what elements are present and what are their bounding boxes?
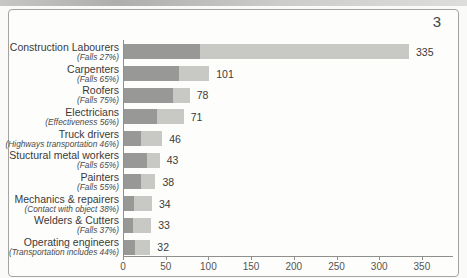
category-label-block: Truck drivers (Highways transportation 4… bbox=[0, 129, 123, 149]
x-axis-tick-label: 200 bbox=[279, 261, 309, 272]
category-label-block: Welders & Cutters (Falls 37%) bbox=[0, 215, 123, 235]
bar-row: Electricians (Effectiveness 56%) 71 bbox=[0, 106, 467, 128]
bar-chart: Construction Labourers (Falls 27%) 335 C… bbox=[0, 41, 467, 258]
category-label-block: Roofers (Falls 75%) bbox=[0, 85, 123, 105]
x-axis-tick bbox=[123, 256, 124, 260]
bar bbox=[123, 66, 209, 81]
bar-segment-primary bbox=[123, 218, 133, 233]
category-sublabel: (Falls 37%) bbox=[0, 226, 119, 235]
x-axis-tick bbox=[294, 256, 295, 260]
value-label: 46 bbox=[169, 133, 181, 145]
bar bbox=[123, 88, 190, 103]
bar-row: Truck drivers (Highways transportation 4… bbox=[0, 128, 467, 150]
bar-segment-secondary bbox=[147, 153, 160, 168]
bar-row: Mechanics & repairers (Contact with obje… bbox=[0, 193, 467, 215]
bar-row: Construction Labourers (Falls 27%) 335 bbox=[0, 41, 467, 63]
x-axis-tick-label: 250 bbox=[322, 261, 352, 272]
category-sublabel: (Falls 75%) bbox=[0, 96, 119, 105]
bar-row: Welders & Cutters (Falls 37%) 33 bbox=[0, 215, 467, 237]
bar-row: Operating engineers (Transportation incl… bbox=[0, 236, 467, 258]
value-label: 43 bbox=[167, 154, 179, 166]
bar-segment-primary bbox=[123, 174, 141, 189]
category-label: Truck drivers bbox=[0, 129, 119, 140]
bar-segment-primary bbox=[123, 153, 147, 168]
scan-edge-artifact bbox=[0, 0, 467, 6]
category-sublabel: (Contact with object 38%) bbox=[0, 205, 119, 214]
value-label: 335 bbox=[416, 46, 434, 58]
bar-segment-secondary bbox=[173, 88, 190, 103]
value-label: 34 bbox=[159, 198, 171, 210]
bar bbox=[123, 131, 162, 146]
category-label-block: Construction Labourers (Falls 27%) bbox=[0, 42, 123, 62]
x-axis-tick-label: 100 bbox=[193, 261, 223, 272]
category-sublabel: (Transportation includes 44%) bbox=[0, 248, 119, 257]
bar bbox=[123, 109, 184, 124]
category-sublabel: (Falls 55%) bbox=[0, 183, 119, 192]
y-axis-line bbox=[123, 40, 124, 256]
category-label-block: Electricians (Effectiveness 56%) bbox=[0, 107, 123, 127]
bar-row: Stuctural metal workers (Falls 65%) 43 bbox=[0, 149, 467, 171]
x-axis-tick bbox=[379, 256, 380, 260]
x-axis-tick-label: 50 bbox=[151, 261, 181, 272]
page-number: 3 bbox=[425, 13, 449, 30]
bar-segment-primary bbox=[123, 109, 157, 124]
x-axis-tick bbox=[422, 256, 423, 260]
x-axis-tick-label: 300 bbox=[364, 261, 394, 272]
bar bbox=[123, 240, 150, 255]
x-axis-tick-label: 150 bbox=[236, 261, 266, 272]
value-label: 33 bbox=[158, 219, 170, 231]
bar-row: Painters (Falls 55%) 38 bbox=[0, 171, 467, 193]
bar-segment-primary bbox=[123, 88, 173, 103]
bar-segment-secondary bbox=[179, 66, 209, 81]
category-label-block: Mechanics & repairers (Contact with obje… bbox=[0, 194, 123, 214]
bar-segment-primary bbox=[123, 240, 135, 255]
x-axis-line bbox=[123, 256, 453, 257]
value-label: 101 bbox=[216, 68, 234, 80]
category-sublabel: (Falls 65%) bbox=[0, 161, 119, 170]
bar-segment-secondary bbox=[133, 218, 151, 233]
bar-row: Roofers (Falls 75%) 78 bbox=[0, 84, 467, 106]
bar bbox=[123, 218, 151, 233]
bar bbox=[123, 44, 409, 59]
x-axis-tick bbox=[166, 256, 167, 260]
bar bbox=[123, 174, 155, 189]
category-sublabel: (Effectiveness 56%) bbox=[0, 118, 119, 127]
value-label: 71 bbox=[191, 111, 203, 123]
x-axis-tick-label: 0 bbox=[108, 261, 138, 272]
category-label-block: Stuctural metal workers (Falls 65%) bbox=[0, 150, 123, 170]
category-sublabel: (Falls 27%) bbox=[0, 53, 119, 62]
category-label-block: Operating engineers (Transportation incl… bbox=[0, 237, 123, 257]
bar-segment-primary bbox=[123, 66, 179, 81]
category-sublabel: (Highways transportation 46%) bbox=[0, 140, 119, 149]
bar-segment-secondary bbox=[135, 240, 150, 255]
bar bbox=[123, 153, 160, 168]
bar-segment-secondary bbox=[200, 44, 409, 59]
scanned-page: 3 Construction Labourers (Falls 27%) 335… bbox=[0, 0, 467, 278]
bar-segment-primary bbox=[123, 44, 200, 59]
bar-segment-secondary bbox=[141, 131, 162, 146]
bar-segment-primary bbox=[123, 196, 134, 211]
category-label-block: Carpenters (Falls 65%) bbox=[0, 64, 123, 84]
x-axis-tick-label: 350 bbox=[407, 261, 437, 272]
bar-segment-primary bbox=[123, 131, 141, 146]
category-label-block: Painters (Falls 55%) bbox=[0, 172, 123, 192]
value-label: 32 bbox=[157, 241, 169, 253]
value-label: 78 bbox=[197, 89, 209, 101]
category-label: Carpenters bbox=[0, 64, 119, 75]
bar-row: Carpenters (Falls 65%) 101 bbox=[0, 63, 467, 85]
x-axis-tick bbox=[251, 256, 252, 260]
bar-segment-secondary bbox=[134, 196, 152, 211]
bar bbox=[123, 196, 152, 211]
category-sublabel: (Falls 65%) bbox=[0, 75, 119, 84]
x-axis-tick bbox=[208, 256, 209, 260]
bar-segment-secondary bbox=[157, 109, 184, 124]
category-label: Mechanics & repairers bbox=[0, 194, 119, 205]
bar-segment-secondary bbox=[141, 174, 156, 189]
x-axis-tick bbox=[337, 256, 338, 260]
value-label: 38 bbox=[162, 176, 174, 188]
